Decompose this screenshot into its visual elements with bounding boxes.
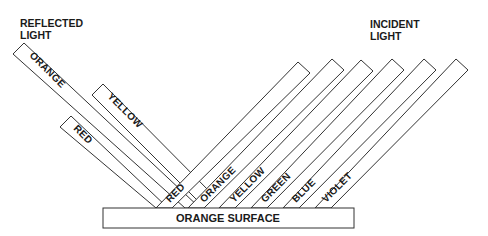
reflected-light-heading-line1: REFLECTED: [20, 17, 83, 29]
reflected-beam-orange: ORANGE: [13, 43, 200, 208]
incident-light-heading-line1: INCIDENT: [370, 18, 420, 30]
surface-label: ORANGE SURFACE: [176, 212, 280, 224]
incident-light-heading-line2: LIGHT: [370, 30, 402, 42]
reflected-beam-yellow: YELLOW: [92, 84, 215, 207]
orange-surface: ORANGE SURFACE: [103, 208, 354, 228]
light-reflection-diagram: REFLECTED LIGHT INCIDENT LIGHT ORANGE YE…: [0, 0, 488, 236]
reflected-light-heading-line2: LIGHT: [20, 29, 52, 41]
